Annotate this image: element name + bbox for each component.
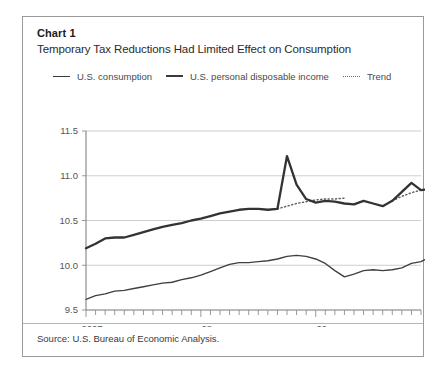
thick-line-icon <box>166 75 183 77</box>
y-axis-label: 10.0 <box>60 260 79 271</box>
chart-title: Temporary Tax Reductions Had Limited Eff… <box>37 43 351 55</box>
chart-legend: U.S. consumption U.S. personal disposabl… <box>53 67 403 85</box>
source-note: Source: U.S. Bureau of Economic Analysis… <box>37 333 219 344</box>
legend-label-consumption: U.S. consumption <box>77 71 152 82</box>
thin-line-icon <box>53 76 70 77</box>
legend-label-trend: Trend <box>367 71 391 82</box>
series-line-disposable-income <box>86 156 425 248</box>
legend-item-consumption: U.S. consumption <box>53 71 152 82</box>
series-line-consumption <box>86 252 425 299</box>
chart-svg: 9.510.010.511.011.520070809 <box>23 95 425 327</box>
legend-item-trend: Trend <box>343 71 391 82</box>
chart-number-label: Chart 1 <box>37 27 76 39</box>
y-axis-label: 10.5 <box>60 215 79 226</box>
y-axis-label: 11.5 <box>60 125 78 136</box>
legend-item-disposable-income: U.S. personal disposable income <box>166 71 329 82</box>
legend-label-disposable-income: U.S. personal disposable income <box>190 71 329 82</box>
plot-area: 9.510.010.511.011.520070809 <box>23 95 425 327</box>
dotted-line-icon <box>343 76 360 77</box>
y-axis-label: 11.0 <box>60 170 78 181</box>
y-axis-label: 9.5 <box>65 304 78 315</box>
footer-divider <box>23 323 423 324</box>
chart-card: Chart 1 Temporary Tax Reductions Had Lim… <box>22 16 424 357</box>
